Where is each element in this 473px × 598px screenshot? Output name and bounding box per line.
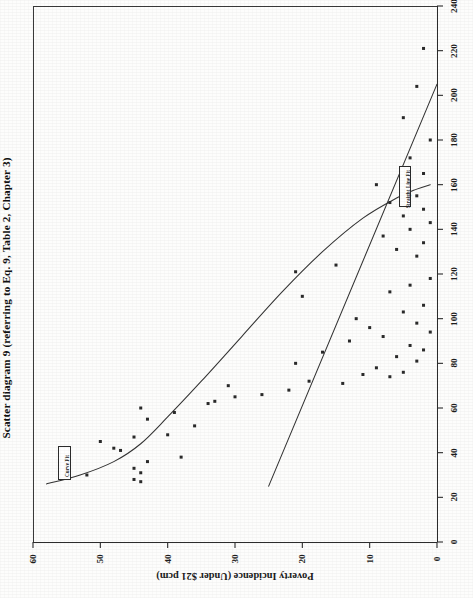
- scatter-point: [294, 270, 297, 273]
- scatter-point: [422, 241, 425, 244]
- scatter-point: [415, 322, 418, 325]
- x-axis-tick-label: 180: [447, 127, 461, 153]
- scatter-point: [402, 214, 405, 217]
- scatter-point: [139, 471, 142, 474]
- x-axis-ticks: [437, 6, 443, 542]
- x-axis-tick-label: 240: [447, 0, 461, 19]
- scatter-point: [133, 478, 136, 481]
- scatter-point: [429, 221, 432, 224]
- scatter-point: [388, 201, 391, 204]
- scatter-point: [207, 402, 210, 405]
- scatter-point: [415, 255, 418, 258]
- x-axis-tick-label: 220: [447, 38, 461, 64]
- legend-curve-fit-label: Curve Fit: [64, 450, 72, 482]
- scatter-point: [146, 418, 149, 421]
- scatter-point: [422, 348, 425, 351]
- scatter-point: [388, 375, 391, 378]
- scatter-point: [234, 395, 237, 398]
- scatter-point: [166, 433, 169, 436]
- scatter-point: [335, 264, 338, 267]
- scatter-point: [415, 360, 418, 363]
- scatter-point: [402, 310, 405, 313]
- scatter-point: [112, 447, 115, 450]
- scatter-point: [294, 362, 297, 365]
- scatter-point: [415, 194, 418, 197]
- scatter-point: [341, 382, 344, 385]
- x-axis-tick-label: 100: [447, 306, 461, 332]
- scatter-point: [139, 407, 142, 410]
- scatter-point: [119, 449, 122, 452]
- scatter-point: [422, 47, 425, 50]
- x-axis-tick-label: 200: [447, 82, 461, 108]
- scatter-point: [415, 85, 418, 88]
- x-axis-tick-label: 60: [447, 395, 461, 421]
- x-axis-tick-label: 120: [447, 261, 461, 287]
- scatter-point: [180, 456, 183, 459]
- scatter-point: [361, 373, 364, 376]
- x-axis-tick-label: 140: [447, 216, 461, 242]
- scatter-point: [395, 355, 398, 358]
- y-axis-tick-label: 10: [363, 546, 377, 572]
- scatter-point: [395, 248, 398, 251]
- scatter-point: [133, 467, 136, 470]
- scatter-point: [409, 156, 412, 159]
- scatter-point: [422, 304, 425, 307]
- scatter-point: [382, 335, 385, 338]
- scatter-point: [429, 277, 432, 280]
- straight-line-fit-path: [269, 84, 437, 486]
- y-axis-tick-label: 0: [430, 546, 444, 572]
- scatter-point: [375, 183, 378, 186]
- scatter-point: [287, 389, 290, 392]
- scatter-point: [146, 460, 149, 463]
- chart-canvas: [0, 0, 473, 598]
- scatter-point: [402, 116, 405, 119]
- scatter-points: [85, 47, 431, 483]
- scatter-point: [355, 317, 358, 320]
- scatter-point: [133, 436, 136, 439]
- scatter-point: [388, 290, 391, 293]
- legend-straight-line-fit-label: Straight Line Fit: [405, 170, 413, 209]
- scatter-point: [368, 326, 371, 329]
- x-axis-tick-label: 0: [447, 529, 461, 555]
- legend-straight-line-fit[interactable]: Straight Line Fit: [399, 166, 411, 207]
- scatter-point: [422, 208, 425, 211]
- figure-page: Scatter diagram 9 (referring to Eq. 9, T…: [0, 0, 473, 598]
- scatter-point: [308, 380, 311, 383]
- scatter-point: [409, 344, 412, 347]
- scatter-point: [193, 424, 196, 427]
- y-axis-tick-label: 50: [93, 546, 107, 572]
- scatter-point: [85, 474, 88, 477]
- x-axis-tick-label: 40: [447, 440, 461, 466]
- scatter-point: [213, 400, 216, 403]
- scatter-point: [429, 139, 432, 142]
- y-axis-tick-label: 60: [26, 546, 40, 572]
- x-axis-tick-label: 160: [447, 172, 461, 198]
- scatter-point: [409, 284, 412, 287]
- scatter-point: [409, 228, 412, 231]
- scatter-point: [260, 393, 263, 396]
- y-axis-label: Poverty Incidence (Under $21 pcm): [110, 566, 360, 582]
- legend-curve-fit[interactable]: Curve Fit: [58, 446, 71, 480]
- scatter-point: [348, 340, 351, 343]
- scatter-point: [429, 331, 432, 334]
- scatter-point: [321, 351, 324, 354]
- scatter-point: [173, 411, 176, 414]
- scatter-point: [382, 235, 385, 238]
- x-axis-tick-label: 80: [447, 350, 461, 376]
- curve-fit-path: [46, 185, 430, 484]
- scatter-point: [402, 371, 405, 374]
- scatter-point: [301, 295, 304, 298]
- scatter-point: [422, 172, 425, 175]
- scatter-point: [139, 480, 142, 483]
- scatter-point: [227, 384, 230, 387]
- scatter-point: [375, 366, 378, 369]
- scatter-point: [99, 440, 102, 443]
- x-axis-tick-label: 20: [447, 484, 461, 510]
